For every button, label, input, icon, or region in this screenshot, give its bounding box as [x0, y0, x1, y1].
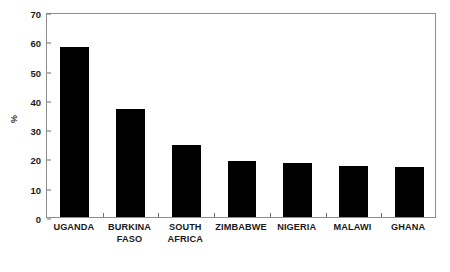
x-axis-tick-mark	[214, 213, 215, 217]
y-axis-tick-mark	[47, 72, 51, 73]
x-axis-category-label-line: UGANDA	[46, 222, 102, 234]
x-axis-tick-mark	[158, 213, 159, 217]
x-axis-category-label: GHANA	[380, 222, 436, 234]
y-axis-tick-mark	[47, 160, 51, 161]
x-axis-category-label-line: NIGERIA	[269, 222, 325, 234]
plot-area: 010203040506070	[46, 13, 436, 218]
bar-chart-figure: % 010203040506070 UGANDABURKINAFASOSOUTH…	[0, 0, 450, 272]
y-axis-tick-mark	[47, 131, 51, 132]
x-axis-category-label-line: BURKINA	[102, 222, 158, 234]
bar	[395, 167, 424, 217]
bar	[339, 166, 368, 217]
x-axis-category-label-line: MALAWI	[325, 222, 381, 234]
y-axis-tick-mark	[47, 14, 51, 15]
x-axis-category-label: NIGERIA	[269, 222, 325, 234]
bars-container	[47, 14, 435, 217]
y-axis-label: %	[0, 107, 29, 131]
x-axis-category-label-line: AFRICA	[157, 234, 213, 246]
y-axis-tick-mark	[47, 219, 51, 220]
x-axis-category-label: MALAWI	[325, 222, 381, 234]
y-axis-tick-label: 50	[30, 67, 47, 78]
y-axis-tick-label: 40	[30, 96, 47, 107]
y-axis-tick-label: 10	[30, 184, 47, 195]
y-axis-tick-mark	[47, 101, 51, 102]
y-axis-tick-label: 60	[30, 38, 47, 49]
x-axis-category-label-line: ZIMBABWE	[213, 222, 269, 234]
bar	[116, 109, 145, 217]
bar	[172, 145, 201, 217]
x-axis-category-label-line: SOUTH	[157, 222, 213, 234]
x-axis-tick-mark	[270, 213, 271, 217]
y-axis-tick-label: 20	[30, 155, 47, 166]
y-axis-tick-label: 30	[30, 126, 47, 137]
x-axis-category-label-line: FASO	[102, 234, 158, 246]
bar	[228, 161, 257, 217]
bar	[60, 47, 89, 217]
x-axis-category-label: SOUTHAFRICA	[157, 222, 213, 245]
x-axis-category-label: ZIMBABWE	[213, 222, 269, 234]
x-axis-tick-mark	[326, 213, 327, 217]
y-axis-tick-label: 70	[30, 9, 47, 20]
x-axis-category-label: BURKINAFASO	[102, 222, 158, 245]
bar	[283, 163, 312, 217]
x-axis-tick-mark	[381, 213, 382, 217]
x-axis-tick-mark	[103, 213, 104, 217]
x-axis-category-label: UGANDA	[46, 222, 102, 234]
x-axis-category-label-line: GHANA	[380, 222, 436, 234]
caption-fragment	[150, 264, 440, 270]
x-axis-labels: UGANDABURKINAFASOSOUTHAFRICAZIMBABWENIGE…	[46, 222, 436, 256]
y-axis-tick-mark	[47, 43, 51, 44]
y-axis-tick-mark	[47, 189, 51, 190]
